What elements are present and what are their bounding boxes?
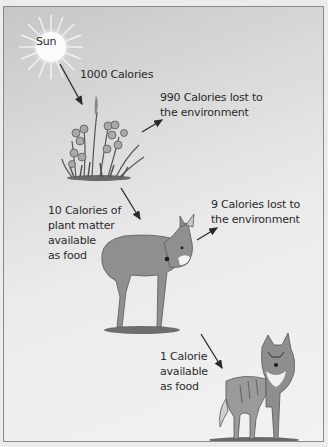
deer-to-wolf-label: 1 Calorie available as food xyxy=(160,349,208,394)
wolf-icon xyxy=(209,333,299,442)
diagram-frame: Sun 1000 Calories 990 Calories lost to t… xyxy=(3,6,324,442)
plants-loss-label: 990 Calories lost to the environment xyxy=(160,90,263,120)
arrow-plants-loss xyxy=(142,120,162,132)
sun-to-plants-label: 1000 Calories xyxy=(80,67,153,82)
deer-loss-label: 9 Calories lost to the environment xyxy=(211,197,300,227)
plants-icon xyxy=(62,95,144,181)
arrow-plants-to-deer xyxy=(121,188,140,219)
arrow-deer-loss xyxy=(197,228,217,240)
plants-to-deer-label: 10 Calories of plant matter available as… xyxy=(48,203,121,263)
sun-label: Sun xyxy=(36,34,56,49)
arrow-sun-to-plants xyxy=(60,64,82,104)
